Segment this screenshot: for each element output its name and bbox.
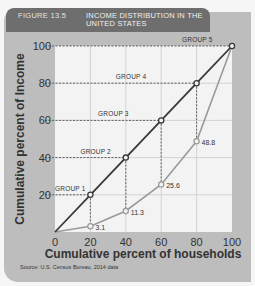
svg-text:3.1: 3.1 [95, 224, 105, 231]
svg-text:20: 20 [39, 189, 51, 201]
svg-text:80: 80 [39, 77, 51, 89]
y-axis-label: Cumulative percent of Income [13, 53, 27, 225]
svg-text:48.8: 48.8 [202, 139, 216, 146]
lorenz-chart: 02040608010020406080100 GROUP 1GROUP 2GR… [0, 0, 255, 286]
svg-text:25.6: 25.6 [166, 182, 180, 189]
x-axis-label: Cumulative percent of households [45, 247, 242, 261]
svg-text:GROUP 2: GROUP 2 [80, 148, 111, 155]
svg-text:11.3: 11.3 [131, 209, 144, 216]
svg-text:100: 100 [33, 40, 51, 52]
svg-text:GROUP 1: GROUP 1 [55, 185, 86, 192]
source-note: Source: U.S. Census Bureau, 2014 data [20, 264, 118, 270]
svg-text:40: 40 [39, 152, 51, 164]
svg-text:GROUP 5: GROUP 5 [182, 36, 213, 43]
svg-text:GROUP 3: GROUP 3 [98, 110, 129, 117]
svg-text:60: 60 [39, 114, 51, 126]
svg-text:GROUP 4: GROUP 4 [116, 73, 147, 80]
